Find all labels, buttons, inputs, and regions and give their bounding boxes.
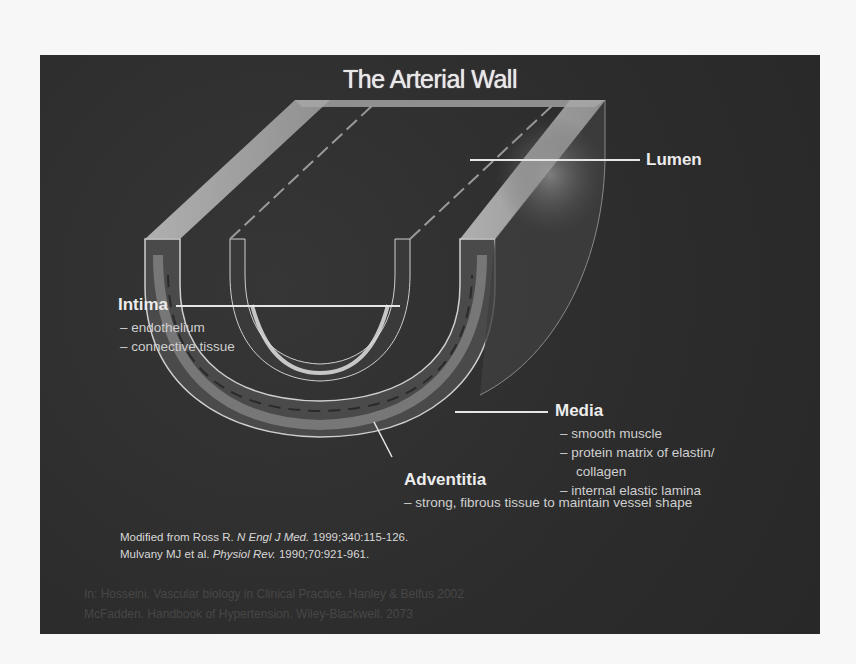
media-item: collagen — [560, 462, 715, 481]
intima-item: – endothelium — [120, 318, 235, 337]
reference-1: Modified from Ross R. N Engl J Med. 1999… — [120, 529, 408, 546]
adventitia-item: – strong, fibrous tissue to maintain ves… — [404, 493, 692, 512]
references: Modified from Ross R. N Engl J Med. 1999… — [120, 529, 408, 563]
faint-footer-citation: In: Hosseini. Vascular biology in Clinic… — [84, 584, 464, 624]
media-details: – smooth muscle – protein matrix of elas… — [560, 424, 715, 500]
label-media: Media — [555, 401, 603, 421]
media-item: – smooth muscle — [560, 424, 715, 443]
slide: The Arterial Wall L — [40, 55, 820, 634]
intima-details: – endothelium – connective tissue — [120, 318, 235, 356]
label-adventitia: Adventitia — [404, 470, 486, 490]
media-item: – protein matrix of elastin/ — [560, 443, 715, 462]
reference-2: Mulvany MJ et al. Physiol Rev. 1990;70:9… — [120, 546, 408, 563]
intima-item: – connective tissue — [120, 337, 235, 356]
label-intima: Intima — [118, 295, 168, 315]
label-lumen: Lumen — [646, 150, 702, 170]
adventitia-details: – strong, fibrous tissue to maintain ves… — [404, 493, 692, 512]
